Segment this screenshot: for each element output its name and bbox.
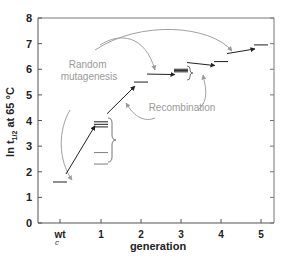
y-tick-label: 0 [26, 217, 32, 229]
y-tick-label: 1 [26, 191, 32, 203]
x-tick-label: 2 [138, 229, 144, 240]
y-tick-label: 4 [26, 115, 33, 127]
y-axis-label: ln t1/2 at 65 °C [4, 87, 18, 157]
chart-container: 012345678 wt12345 generation c ln t1/2 a… [0, 0, 291, 264]
y-tick-label: 3 [26, 140, 32, 152]
x-tick-label: 3 [178, 229, 184, 240]
brace-gen1 [108, 118, 116, 162]
plot-frame [38, 18, 274, 223]
progression-arrow [66, 126, 95, 174]
annotation-recombination: Recombination [149, 102, 216, 113]
y-tick-label: 6 [26, 63, 32, 75]
y-tick-label: 5 [26, 89, 32, 101]
x-tick-label: 4 [218, 229, 224, 240]
panel-label: c [55, 238, 59, 247]
braces [108, 66, 193, 162]
y-tick-label: 7 [26, 38, 32, 50]
y-tick-label: 8 [26, 12, 32, 24]
annotation-random-mutagenesis: Random mutagenesis [61, 59, 118, 82]
y-tick-label: 2 [26, 166, 32, 178]
x-axis-label: generation [130, 240, 187, 252]
brace-gen3 [187, 66, 193, 80]
x-tick-label: 1 [98, 229, 104, 240]
svg-text:ln t1/2 at 65 °C: ln t1/2 at 65 °C [4, 87, 18, 157]
progression-arrow [187, 63, 215, 66]
x-tick-label: 5 [258, 229, 264, 240]
mutagenesis-arrow-to-gen1 [61, 110, 72, 180]
x-axis: wt12345 [53, 219, 264, 240]
mutagenesis-arrow-to-gen4 [95, 29, 232, 51]
y-axis: 012345678 [26, 12, 274, 229]
